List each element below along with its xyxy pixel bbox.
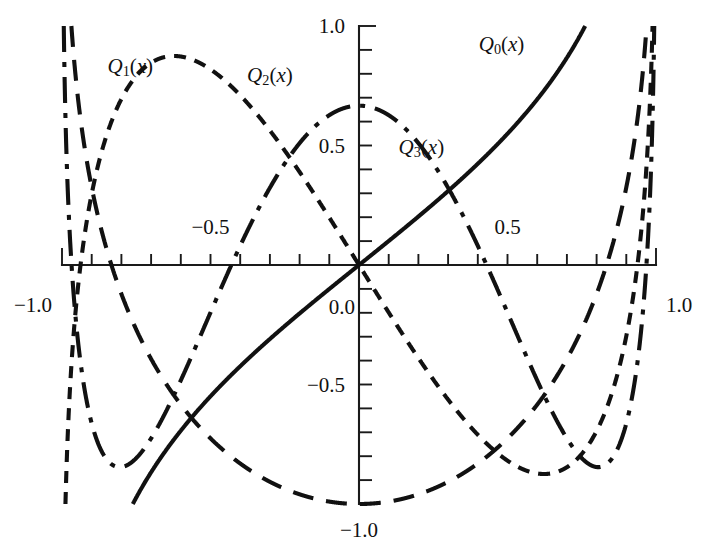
curve-label-q1-arg: (x) bbox=[130, 53, 153, 77]
curve-label-q2-base: Q bbox=[247, 63, 262, 87]
x-tick-label-neg0-5: −0.5 bbox=[191, 215, 229, 240]
legendre-q-functions-figure: −1.0 −0.5 0.5 1.0 1.0 0.5 0.0 −0.5 −1.0 … bbox=[0, 0, 707, 552]
curve-label-q0-arg: (x) bbox=[501, 32, 524, 56]
y-tick-label-pos1: 1.0 bbox=[319, 14, 345, 39]
curve-label-q2: Q2(x) bbox=[247, 63, 293, 90]
y-tick-label-zero: 0.0 bbox=[329, 295, 355, 320]
x-tick-label-neg1: −1.0 bbox=[14, 293, 52, 318]
curve-label-q3-arg: (x) bbox=[421, 134, 444, 158]
curve-label-q1: Q1(x) bbox=[107, 53, 153, 80]
x-tick-label-pos1: 1.0 bbox=[666, 293, 692, 318]
curve-label-q0: Q0(x) bbox=[479, 32, 525, 59]
curve-label-q0-base: Q bbox=[479, 32, 494, 56]
x-tick-label-pos0-5: 0.5 bbox=[494, 215, 520, 240]
y-tick-label-neg0-5: −0.5 bbox=[307, 372, 345, 397]
curve-label-q3-base: Q bbox=[399, 134, 414, 158]
y-tick-label-neg1: −1.0 bbox=[340, 518, 378, 543]
curve-label-q2-arg: (x) bbox=[269, 63, 292, 87]
curve-label-q3: Q3(x) bbox=[399, 134, 445, 161]
y-tick-label-pos0-5: 0.5 bbox=[319, 133, 345, 158]
curve-label-q1-base: Q bbox=[107, 53, 122, 77]
plot-canvas bbox=[0, 0, 707, 552]
